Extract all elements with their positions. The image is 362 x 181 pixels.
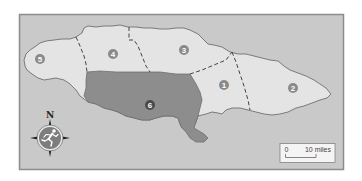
scale-bar: 0 10 miles bbox=[280, 144, 335, 163]
region-label-6[interactable]: 6 bbox=[145, 100, 155, 110]
region-label-3-text: 3 bbox=[182, 46, 187, 55]
map: 5 4 3 1 2 6 N bbox=[0, 0, 362, 181]
scale-bar-start-label: 0 bbox=[285, 146, 289, 153]
region-label-5[interactable]: 5 bbox=[35, 54, 45, 64]
region-label-6-text: 6 bbox=[148, 101, 153, 110]
region-label-2-text: 2 bbox=[291, 84, 296, 93]
region-label-4[interactable]: 4 bbox=[108, 49, 118, 59]
region-label-2[interactable]: 2 bbox=[288, 83, 298, 93]
region-label-5-text: 5 bbox=[38, 55, 43, 64]
region-label-1[interactable]: 1 bbox=[219, 80, 229, 90]
compass-north-label: N bbox=[46, 110, 54, 120]
region-label-3[interactable]: 3 bbox=[179, 45, 189, 55]
region-label-4-text: 4 bbox=[111, 50, 116, 59]
scale-bar-end-label: 10 miles bbox=[305, 146, 332, 153]
region-label-1-text: 1 bbox=[222, 81, 227, 90]
